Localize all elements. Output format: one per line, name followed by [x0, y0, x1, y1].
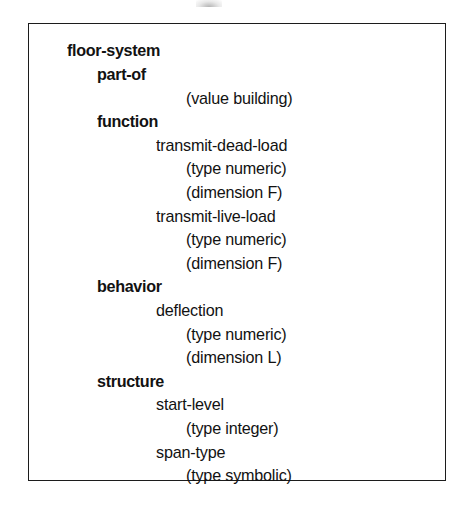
frame-line: (value building): [186, 90, 292, 107]
frame-line: (type numeric): [186, 326, 287, 343]
frame-line: structure: [97, 373, 164, 390]
frame-line: (type symbolic): [186, 467, 292, 484]
frame-line: (dimension F): [186, 184, 282, 201]
frame-line: (type numeric): [186, 231, 287, 248]
frame-line: part-of: [97, 66, 146, 83]
frame-line: (type numeric): [186, 160, 287, 177]
frame-line: floor-system: [67, 42, 160, 59]
frame-line: function: [97, 113, 158, 130]
frame-line: start-level: [156, 396, 224, 413]
frame-slot-listing: floor-systempart-of(value building)funct…: [29, 24, 445, 480]
frame-line: deflection: [156, 302, 223, 319]
frame-line: behavior: [97, 278, 162, 295]
frame-line: (dimension L): [186, 349, 281, 366]
frame-line: span-type: [156, 444, 225, 461]
frame-line: transmit-dead-load: [156, 137, 287, 154]
scan-artifact: [196, 0, 222, 7]
frame-diagram-box: floor-systempart-of(value building)funct…: [28, 23, 446, 481]
frame-line: transmit-live-load: [156, 208, 276, 225]
frame-line: (type integer): [186, 420, 278, 437]
frame-line: (dimension F): [186, 255, 282, 272]
